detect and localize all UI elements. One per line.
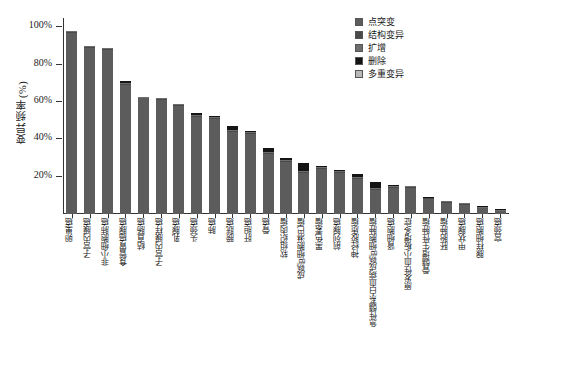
x-axis-label: 肺癌 xyxy=(210,218,218,234)
bar-segment[interactable] xyxy=(173,106,184,214)
bar-group[interactable] xyxy=(405,186,416,214)
x-axis-label: 子宫内膜癌 xyxy=(85,218,93,258)
x-axis-label: 神经胶质瘤 xyxy=(353,218,361,258)
legend-item[interactable]: 删除 xyxy=(355,55,404,66)
legend-color-swatch xyxy=(355,18,363,26)
legend-label: 点突变 xyxy=(368,15,395,28)
bar-group[interactable] xyxy=(334,170,345,214)
bar-segment[interactable] xyxy=(298,173,309,214)
bar-group[interactable] xyxy=(298,163,309,214)
bar-segment[interactable] xyxy=(388,188,399,214)
y-axis-tick-label: 60% xyxy=(34,94,52,105)
x-axis-label: 宫颈癌 xyxy=(496,218,504,242)
legend-item[interactable]: 点突变 xyxy=(355,16,404,27)
legend-label: 多重变异 xyxy=(368,67,404,80)
legend-color-swatch xyxy=(355,31,363,39)
x-axis-label: 卵巢癌 xyxy=(67,218,75,242)
x-axis-label: 胚胎肿瘤 xyxy=(442,218,450,250)
x-axis-label: 软组织肉瘤 xyxy=(282,218,290,258)
bar-group[interactable] xyxy=(66,31,77,214)
x-axis-label: 甲状腺癌 xyxy=(460,218,468,250)
bar-segment[interactable] xyxy=(280,162,291,214)
chart-legend: 点突变结构变异扩增删除多重变异 xyxy=(355,16,404,79)
legend-label: 扩增 xyxy=(368,41,386,54)
x-axis-label: 成熟B细胞淋巴瘤 xyxy=(299,218,307,279)
legend-color-swatch xyxy=(355,57,363,65)
bar-segment[interactable] xyxy=(459,205,470,214)
x-axis-label: 腺样细胞癌 xyxy=(478,218,486,258)
legend-item[interactable]: 结构变异 xyxy=(355,29,404,40)
legend-label: 删除 xyxy=(368,54,386,67)
bar-segment[interactable] xyxy=(441,203,452,214)
y-axis-tick: 60% xyxy=(56,101,62,102)
bar-segment[interactable] xyxy=(263,154,274,214)
bar-segment[interactable] xyxy=(102,50,113,214)
x-axis-label: 结直肠癌 xyxy=(139,218,147,250)
y-axis-tick-label: 80% xyxy=(34,57,52,68)
legend-item[interactable]: 多重变异 xyxy=(355,68,404,79)
x-axis-label: 前列腺癌 xyxy=(335,218,343,250)
bar-group[interactable] xyxy=(441,201,452,214)
y-axis-tick-label: 20% xyxy=(34,169,52,180)
legend-color-swatch xyxy=(355,44,363,52)
x-axis-labels: 卵巢癌子宫内膜癌非小细胞肺癌食管胃癌腺癌结直肠癌子宫内膜样癌乳腺癌头颈癌肺癌膀胱… xyxy=(63,216,509,366)
legend-label: 结构变异 xyxy=(368,28,404,41)
y-axis-tick-label: 40% xyxy=(34,131,52,142)
legend-color-swatch xyxy=(355,70,363,78)
bar-segment[interactable] xyxy=(120,85,131,214)
mutation-frequency-bar-chart: 变异频率(%) 20%40%60%80%100% 卵巢癌子宫内膜癌非小细胞肺癌食… xyxy=(0,0,564,372)
bar-segment[interactable] xyxy=(66,33,77,214)
bar-segment[interactable] xyxy=(370,190,381,214)
bar-segment[interactable] xyxy=(156,100,167,214)
bar-segment[interactable] xyxy=(209,119,220,214)
y-axis-tick: 20% xyxy=(56,176,62,177)
y-axis-tick: 100% xyxy=(56,26,62,27)
bar-segment[interactable] xyxy=(84,48,95,214)
bar-segment[interactable] xyxy=(405,188,416,214)
bar-group[interactable] xyxy=(84,46,95,214)
bar-group[interactable] xyxy=(191,113,202,214)
x-axis-label: 子宫内膜样癌 xyxy=(157,218,165,266)
bar-segment[interactable] xyxy=(352,179,363,214)
x-axis-label: 头颈癌 xyxy=(192,218,200,242)
bar-group[interactable] xyxy=(263,148,274,214)
bar-segment[interactable] xyxy=(423,199,434,214)
bar-segment[interactable] xyxy=(298,163,309,170)
x-axis-label: 肾细胞癌 xyxy=(389,218,397,250)
bars-layer xyxy=(63,18,509,214)
bar-group[interactable] xyxy=(370,182,381,214)
bar-group[interactable] xyxy=(156,98,167,214)
bar-group[interactable] xyxy=(459,203,470,214)
bar-group[interactable] xyxy=(388,185,399,214)
bar-segment[interactable] xyxy=(227,132,238,214)
bar-segment[interactable] xyxy=(138,98,149,214)
bar-group[interactable] xyxy=(138,97,149,214)
bar-group[interactable] xyxy=(173,104,184,214)
bar-group[interactable] xyxy=(245,131,256,214)
bar-group[interactable] xyxy=(316,166,327,214)
y-axis-tick-label: 100% xyxy=(29,19,52,30)
x-axis-label: 肝胆癌 xyxy=(246,218,254,242)
bar-group[interactable] xyxy=(352,174,363,214)
x-axis-label: 骨癌 xyxy=(264,218,272,234)
bar-group[interactable] xyxy=(209,116,220,214)
x-axis-label: 食管胃癌腺癌 xyxy=(121,218,129,266)
y-axis-title: 变异频率(%) xyxy=(14,52,30,172)
legend-item[interactable]: 扩增 xyxy=(355,42,404,53)
bar-group[interactable] xyxy=(120,81,131,214)
bar-group[interactable] xyxy=(423,197,434,214)
bar-segment[interactable] xyxy=(245,134,256,214)
bar-group[interactable] xyxy=(102,48,113,214)
y-axis-tick: 40% xyxy=(56,138,62,139)
bar-group[interactable] xyxy=(227,126,238,214)
bar-group[interactable] xyxy=(280,158,291,214)
bar-group[interactable] xyxy=(477,206,488,214)
x-axis-label: 非小细胞肺癌 xyxy=(103,218,111,266)
plot-area: 20%40%60%80%100% xyxy=(63,18,509,214)
bar-segment[interactable] xyxy=(316,169,327,214)
x-axis-label: 乳腺癌 xyxy=(174,218,182,242)
x-axis-label: 黑色素瘤 xyxy=(317,218,325,250)
bar-segment[interactable] xyxy=(191,117,202,214)
bar-segment[interactable] xyxy=(334,173,345,214)
x-axis-label: 骨髓增生性肿瘤 xyxy=(424,218,432,274)
